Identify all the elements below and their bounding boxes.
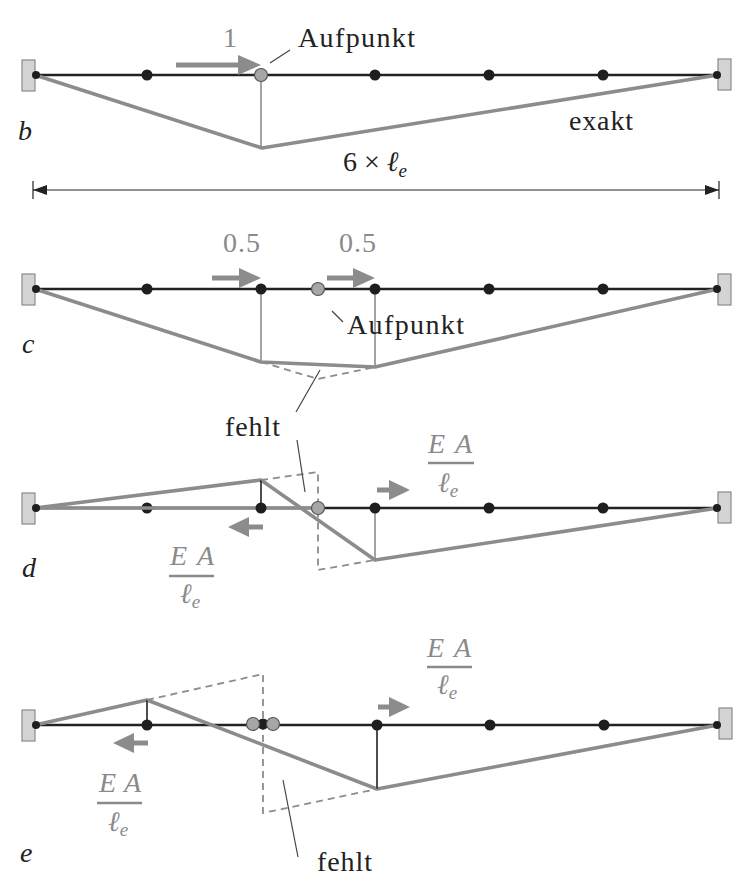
node (32, 285, 40, 293)
right-support (719, 708, 732, 739)
force-numerator: EA (169, 540, 215, 571)
node (484, 70, 495, 81)
node (142, 70, 153, 81)
dimension-symbol: ℓ (387, 146, 399, 177)
panel-c: 0.5 0.5 Aufpunkt c fehlt (22, 227, 731, 442)
node (713, 504, 721, 512)
node (142, 720, 153, 731)
node (598, 70, 609, 81)
force-arrow-right (378, 697, 410, 717)
force-numerator: EA (427, 428, 473, 459)
panel-label: c (22, 328, 35, 359)
force-label-right: EA ℓe (427, 428, 474, 501)
missing-leader-down (297, 440, 305, 492)
aufpunkt-leader (270, 50, 290, 63)
aufpunkt-leader (332, 311, 343, 322)
node (142, 284, 153, 295)
force-numerator: EA (426, 632, 472, 663)
node (598, 284, 609, 295)
dimension-subscript: e (398, 160, 406, 181)
aufpunkt-label: Aufpunkt (298, 22, 415, 53)
dimension-factor: 6 (343, 146, 357, 177)
panel-label: b (18, 115, 32, 146)
fe-influence-line (35, 480, 718, 560)
force-arrow-right (377, 480, 410, 500)
force-arrow-left (113, 733, 148, 753)
node (370, 503, 381, 514)
force-numerator: EA (98, 767, 142, 798)
force-denominator: ℓe (437, 669, 457, 703)
force-label-right: EA ℓe (426, 632, 472, 703)
node (713, 721, 721, 729)
dimension-label: 6 × ℓe (343, 146, 407, 181)
panel-d: EA ℓe EA ℓe d (22, 428, 731, 612)
force-denominator: ℓe (180, 578, 200, 612)
node (598, 503, 609, 514)
unit-load-arrow (176, 55, 261, 75)
panel-label: d (22, 552, 37, 583)
force-denominator: ℓe (438, 467, 458, 501)
node (713, 285, 721, 293)
node (372, 720, 383, 731)
node (32, 71, 40, 79)
node (484, 503, 495, 514)
dimension-times: × (364, 146, 380, 177)
aufpunkt-node-right (267, 718, 280, 731)
node (484, 284, 495, 295)
load-arrow-right (327, 268, 375, 288)
aufpunkt-node (312, 283, 325, 296)
load-value: 1 (223, 22, 237, 53)
aufpunkt-node-left (247, 718, 260, 731)
panel-label: e (20, 837, 32, 868)
load-value-right: 0.5 (339, 227, 376, 258)
node (256, 284, 267, 295)
panel-b: 1 Aufpunkt b exakt 6 × ℓe (18, 22, 731, 199)
node (599, 720, 610, 731)
node (713, 71, 721, 79)
panel-e: EA ℓe EA ℓe e fehlt (20, 632, 732, 877)
missing-label: fehlt (225, 411, 280, 442)
force-label-left: EA ℓe (169, 540, 215, 612)
aufpunkt-node (255, 69, 268, 82)
missing-leader (283, 780, 298, 857)
node (256, 503, 267, 514)
influence-line-figure: 1 Aufpunkt b exakt 6 × ℓe (0, 0, 752, 896)
dimension-line (33, 181, 719, 199)
aufpunkt-node (312, 502, 325, 515)
node (32, 721, 40, 729)
missing-label: fehlt (317, 846, 372, 877)
node (370, 70, 381, 81)
aufpunkt-label: Aufpunkt (347, 309, 464, 340)
force-denominator: ℓe (108, 806, 128, 840)
node (32, 504, 40, 512)
load-value-left: 0.5 (223, 227, 260, 258)
load-arrow-left (212, 268, 261, 288)
force-arrow-left (228, 517, 263, 537)
force-label-left: EA ℓe (97, 767, 142, 840)
node (485, 720, 496, 731)
node (370, 284, 381, 295)
exact-label: exakt (569, 105, 633, 136)
